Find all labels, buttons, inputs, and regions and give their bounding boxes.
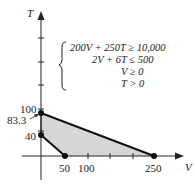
chart: T V 100 83.3 40 50 100 250 200V + 250T ≥…	[0, 0, 195, 186]
x-tick-label-250: 250	[145, 162, 162, 174]
brace-icon	[59, 42, 66, 90]
x-axis-arrow-icon	[175, 153, 184, 160]
y-axis-arrow-icon	[38, 11, 45, 20]
vertex-250-0	[151, 153, 157, 159]
x-tick-label-50: 50	[59, 162, 71, 174]
inequality-1: 200V + 250T ≥ 10,000	[70, 42, 166, 53]
vertex-0-40	[38, 132, 44, 138]
x-tick-label-100: 100	[78, 162, 95, 174]
vertex-0-83	[38, 110, 44, 116]
inequality-2: 2V + 6T ≤ 500	[92, 54, 154, 65]
y-axis-label: T	[27, 7, 34, 19]
inequality-4: T > 0	[121, 78, 145, 89]
x-axis-label: V	[185, 161, 193, 173]
y-tick-label-83: 83.3	[7, 114, 27, 126]
vertex-50-0	[62, 153, 68, 159]
inequality-3: V ≥ 0	[121, 66, 144, 77]
y-tick-label-40: 40	[25, 130, 37, 142]
